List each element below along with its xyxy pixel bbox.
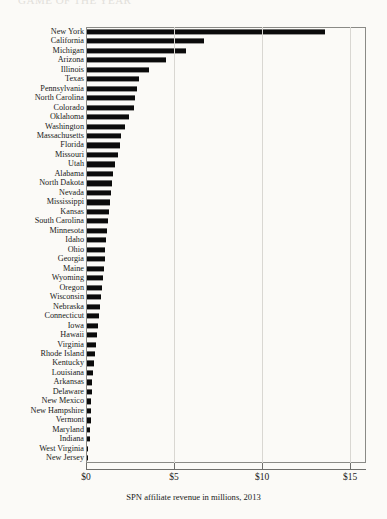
bar-row: Virginia (0, 340, 387, 349)
bar-category-label: Colorado (54, 103, 84, 112)
bar-category-label: Mississippi (47, 198, 84, 207)
bar-row: Ohio (0, 245, 387, 254)
bar-category-label: Iowa (68, 321, 84, 330)
bar-row: Utah (0, 160, 387, 169)
bar-mark (87, 351, 95, 356)
bar-mark (87, 58, 166, 63)
bar-row: North Carolina (0, 93, 387, 102)
bar-row: Nebraska (0, 302, 387, 311)
bar-category-label: Minnesota (49, 226, 84, 235)
bar-row: Minnesota (0, 226, 387, 235)
bar-category-label: Kansas (60, 207, 84, 216)
bar-category-label: Virginia (57, 340, 84, 349)
bar-mark (87, 152, 118, 157)
bar-category-label: Florida (60, 141, 84, 150)
bar-row: Hawaii (0, 330, 387, 339)
bar-category-label: California (51, 37, 84, 46)
bar-row: New Hampshire (0, 406, 387, 415)
bar-row: Washington (0, 122, 387, 131)
bar-row: Massachusetts (0, 131, 387, 140)
bar-category-label: Nevada (59, 188, 84, 197)
bar-category-label: Maine (63, 264, 84, 273)
bar-category-label: New York (51, 27, 84, 36)
bar-row: California (0, 36, 387, 45)
bar-row: Arkansas (0, 378, 387, 387)
bar-mark (87, 86, 137, 91)
bar-row: Connecticut (0, 311, 387, 320)
bar-chart-figure: GAME OF THE YEAR New YorkCaliforniaMichi… (0, 0, 387, 519)
bar-row: Texas (0, 74, 387, 83)
bar-row: Oregon (0, 283, 387, 292)
bar-row: Missouri (0, 150, 387, 159)
bar-row: Colorado (0, 103, 387, 112)
bar-mark (87, 238, 106, 243)
bar-row: Mississippi (0, 198, 387, 207)
bar-category-label: Arkansas (54, 378, 84, 387)
bar-row: Pennsylvania (0, 84, 387, 93)
gridline-10 (262, 27, 263, 463)
bar-row: Arizona (0, 55, 387, 64)
bar-row: Delaware (0, 387, 387, 396)
bar-mark (87, 143, 120, 148)
bar-category-label: Arizona (58, 55, 84, 64)
bar-category-label: North Dakota (39, 179, 84, 188)
bar-row: Wyoming (0, 273, 387, 282)
x-axis-tick-label: $0 (81, 472, 91, 482)
bar-mark (87, 48, 186, 53)
bar-row: Kansas (0, 207, 387, 216)
bar-category-label: New Hampshire (31, 406, 84, 415)
bar-row: Kentucky (0, 359, 387, 368)
bar-row: Maine (0, 264, 387, 273)
bar-category-label: Oklahoma (50, 112, 84, 121)
bar-category-label: Oregon (59, 283, 84, 292)
bar-rows-group: New YorkCaliforniaMichiganArizonaIllinoi… (0, 27, 387, 463)
bar-category-label: Ohio (68, 245, 84, 254)
bar-mark (87, 285, 102, 290)
bar-category-label: South Carolina (35, 217, 84, 226)
bar-row: New Jersey (0, 454, 387, 463)
bar-row: Rhode Island (0, 349, 387, 358)
bar-row: Iowa (0, 321, 387, 330)
gridline-15 (350, 27, 351, 463)
bar-row: New York (0, 27, 387, 36)
bar-mark (87, 276, 103, 281)
bar-row: Indiana (0, 435, 387, 444)
bar-mark (87, 105, 134, 110)
bar-mark (87, 408, 91, 413)
bar-category-label: North Carolina (35, 93, 84, 102)
bar-mark (87, 228, 107, 233)
bar-category-label: Connecticut (44, 311, 84, 320)
bar-category-label: Texas (65, 74, 84, 83)
x-axis-tick (86, 463, 87, 470)
bar-row: Michigan (0, 46, 387, 55)
bar-category-label: Nebraska (53, 302, 84, 311)
bar-category-label: Kentucky (52, 359, 84, 368)
bar-category-label: Rhode Island (41, 349, 84, 358)
bar-mark (87, 247, 105, 252)
bar-row: North Dakota (0, 179, 387, 188)
bar-mark (87, 380, 92, 385)
x-axis-tick (174, 463, 175, 470)
x-axis-tick-label: $10 (255, 472, 269, 482)
bar-mark (87, 209, 109, 214)
bar-mark (87, 67, 149, 72)
bar-mark (87, 399, 91, 404)
bar-category-label: Michigan (53, 46, 84, 55)
bar-row: Oklahoma (0, 112, 387, 121)
bar-mark (87, 77, 139, 82)
bar-mark (87, 332, 97, 337)
bar-row: Idaho (0, 236, 387, 245)
x-axis-tick (262, 463, 263, 470)
bar-category-label: Wisconsin (50, 292, 84, 301)
bar-category-label: Georgia (58, 255, 84, 264)
bar-mark (87, 418, 91, 423)
bar-category-label: Delaware (53, 387, 84, 396)
bar-mark (87, 257, 105, 262)
bar-category-label: Alabama (54, 169, 84, 178)
bar-row: Vermont (0, 416, 387, 425)
bar-mark (87, 361, 94, 366)
bar-mark (87, 133, 121, 138)
bar-mark (87, 437, 90, 442)
bar-category-label: Massachusetts (37, 131, 84, 140)
bar-mark (87, 190, 111, 195)
